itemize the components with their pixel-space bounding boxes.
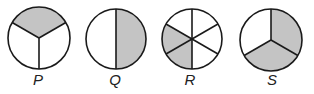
shaded-sector bbox=[116, 9, 146, 69]
circle-r bbox=[162, 9, 222, 69]
fraction-circles-figure: P Q R S bbox=[0, 0, 314, 94]
shaded-sector bbox=[12, 7, 66, 38]
divider-line bbox=[192, 24, 218, 39]
label-p: P bbox=[33, 71, 43, 88]
label-s: S bbox=[267, 71, 277, 88]
label-r: R bbox=[185, 71, 196, 88]
circle-q bbox=[86, 9, 146, 69]
circle-p bbox=[8, 7, 70, 69]
circle-s bbox=[240, 9, 302, 71]
divider-line bbox=[192, 39, 218, 54]
label-q: Q bbox=[109, 71, 121, 88]
